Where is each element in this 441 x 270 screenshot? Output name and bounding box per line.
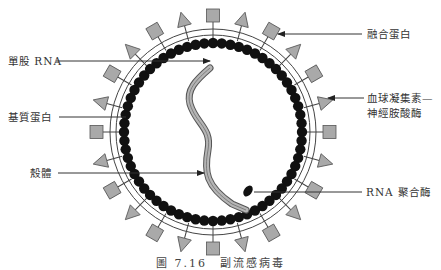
figure-caption: 圖 7.16 副流感病毒 — [0, 254, 441, 270]
label-hn-line1: 血球凝集素— — [367, 91, 434, 105]
label-single-strand-rna: 單股 RNA — [8, 54, 62, 68]
label-rna-polymerase: RNA 聚合酶 — [366, 185, 431, 199]
rna-strand — [189, 68, 246, 210]
label-hn-line2: 神經胺酸酶 — [367, 106, 422, 120]
label-fusion-protein: 融合蛋白 — [367, 27, 411, 41]
label-matrix-protein: 基質蛋白 — [8, 110, 52, 124]
matrix-protein-layer — [119, 38, 307, 226]
rna-polymerase-blob — [241, 184, 254, 198]
label-capsid: 殼體 — [30, 166, 52, 180]
